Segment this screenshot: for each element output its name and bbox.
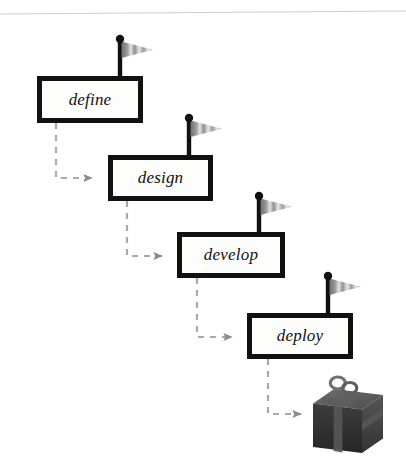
gift-box-icon: [313, 377, 383, 453]
process-node-design[interactable]: [111, 158, 211, 199]
milestone-flag-develop: [255, 192, 292, 233]
connector-define-to-design: [56, 123, 92, 178]
milestone-flag-deploy: [324, 272, 361, 314]
milestone-flag-design: [185, 114, 222, 156]
boxes-layer: [40, 79, 351, 357]
milestone-flag-define: [116, 35, 153, 77]
connector-develop-to-deploy: [197, 278, 232, 337]
process-flow-diagram: [0, 0, 406, 464]
process-node-define[interactable]: [40, 79, 141, 121]
top-divider-line: [0, 11, 406, 14]
connector-design-to-develop: [127, 201, 162, 256]
diagram-canvas: define design develop deploy: [0, 0, 406, 464]
process-node-deploy[interactable]: [250, 316, 351, 357]
connector-deploy-to-deliverable: [268, 359, 301, 414]
process-node-develop[interactable]: [180, 235, 283, 276]
gift-box-graphic: [313, 377, 383, 453]
